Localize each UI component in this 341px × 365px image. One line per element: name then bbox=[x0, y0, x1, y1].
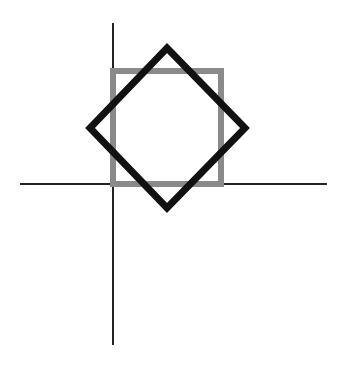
diagram-svg bbox=[0, 0, 341, 365]
diagram-canvas bbox=[0, 0, 341, 365]
